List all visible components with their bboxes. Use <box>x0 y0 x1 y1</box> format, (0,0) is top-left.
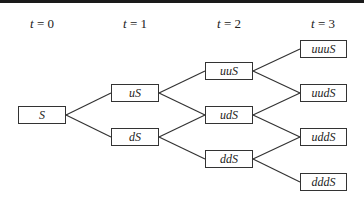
edge-dS-ddS <box>159 137 205 159</box>
edge-S-uS <box>66 93 111 115</box>
time-label-3: t = 3 <box>293 16 353 32</box>
edge-dS-udS <box>159 115 205 137</box>
node-S: S <box>18 106 66 124</box>
node-uS: uS <box>111 84 159 102</box>
edge-ddS-dddS <box>253 159 300 182</box>
time-label-0: t = 0 <box>12 16 72 32</box>
edge-uuS-uudS <box>253 71 300 93</box>
binomial-tree-diagram: t = 0 t = 1 t = 2 t = 3 S uS dS uuS udS … <box>0 0 364 206</box>
node-dS: dS <box>111 128 159 146</box>
time-label-1: t = 1 <box>105 16 165 32</box>
edge-uS-uuS <box>159 71 205 93</box>
node-udS: udS <box>205 106 253 124</box>
edge-uS-udS <box>159 93 205 115</box>
node-uudS: uudS <box>300 84 347 102</box>
node-uddS: uddS <box>300 128 347 146</box>
edge-udS-uddS <box>253 115 300 137</box>
edge-udS-uudS <box>253 93 300 115</box>
node-uuS: uuS <box>205 62 253 80</box>
node-ddS: ddS <box>205 150 253 168</box>
edge-S-dS <box>66 115 111 137</box>
time-label-2: t = 2 <box>199 16 259 32</box>
edge-ddS-uddS <box>253 137 300 159</box>
node-uuuS: uuuS <box>300 40 347 58</box>
node-dddS: dddS <box>300 173 347 191</box>
edge-uuS-uuuS <box>253 49 300 71</box>
